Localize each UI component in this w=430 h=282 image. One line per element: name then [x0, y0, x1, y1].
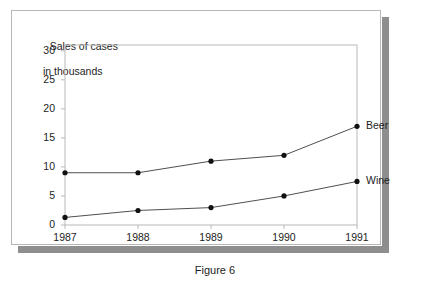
y-axis-tick-label: 25 — [33, 73, 55, 85]
y-axis-tick-label: 10 — [33, 160, 55, 172]
figure-panel: Sales of cases in thousands — [11, 10, 381, 245]
x-axis-tick-label: 1991 — [337, 231, 377, 243]
x-axis-tick-label: 1990 — [264, 231, 304, 243]
chart-axis-title-line1: Sales of cases — [50, 40, 118, 52]
x-axis-tick-label: 1988 — [118, 231, 158, 243]
y-axis-tick-label: 20 — [33, 102, 55, 114]
panel-shadow-right — [382, 17, 389, 253]
panel-shadow-bottom — [18, 246, 389, 253]
y-axis-tick-label: 0 — [33, 218, 55, 230]
y-axis-tick-label: 15 — [33, 131, 55, 143]
x-axis-tick-label: 1987 — [45, 231, 85, 243]
series-label-wine: Wine — [366, 174, 390, 186]
x-axis-tick-label: 1989 — [191, 231, 231, 243]
y-axis-tick-label: 30 — [33, 44, 55, 56]
figure-caption: Figure 6 — [0, 264, 430, 276]
chart-axis-title: Sales of cases in thousands — [38, 27, 118, 102]
series-label-beer: Beer — [366, 119, 388, 131]
y-axis-tick-label: 5 — [33, 189, 55, 201]
